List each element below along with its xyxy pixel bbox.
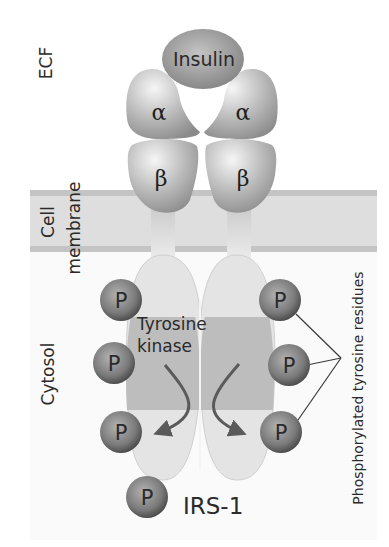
alpha-left-label: α (152, 100, 167, 125)
phosphate-irs1: P (126, 476, 168, 518)
phosphate-left-middle: P (93, 342, 135, 384)
phosphate-right-top: P (259, 279, 301, 321)
svg-text:P: P (115, 289, 128, 313)
svg-text:P: P (274, 289, 287, 313)
alpha-right-label: α (236, 100, 251, 125)
phosphorylated-residues-label: Phosphorylated tyrosine residues (350, 271, 366, 504)
insulin-molecule: Insulin (162, 29, 244, 89)
kinase-label-line1: Tyrosine (136, 314, 207, 334)
beta-left-label: β (155, 166, 168, 191)
beta-right-label: β (237, 166, 250, 191)
phosphate-right-middle: P (268, 344, 310, 386)
phosphate-left-bottom: P (100, 411, 142, 453)
svg-text:P: P (108, 352, 121, 376)
membrane-label-line2: membrane (64, 181, 84, 274)
ecf-label: ECF (36, 47, 56, 79)
membrane-label-line1: Cell (38, 206, 58, 238)
kinase-label-line2: kinase (137, 336, 192, 356)
phosphate-left-top: P (100, 279, 142, 321)
insulin-label: Insulin (173, 48, 235, 70)
phosphate-right-bottom: P (260, 411, 302, 453)
svg-text:P: P (275, 421, 288, 445)
insulin-receptor-diagram: β β α α Insulin Tyrosine kinase P P (0, 0, 389, 547)
irs1-label: IRS-1 (183, 493, 243, 519)
svg-text:P: P (115, 421, 128, 445)
svg-text:P: P (141, 486, 154, 510)
cytosol-label: Cytosol (38, 343, 58, 406)
svg-text:P: P (283, 354, 296, 378)
